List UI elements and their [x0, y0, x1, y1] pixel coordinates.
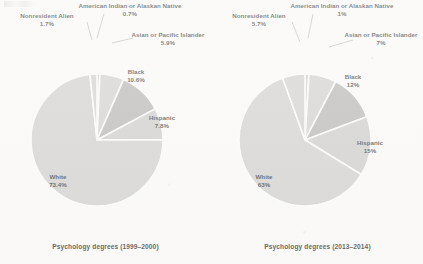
scan-artifact-icon: [4, 1, 48, 7]
slice-label-name: American Indian or Alaskan Native: [79, 2, 182, 9]
slice-label-name: Black: [345, 73, 362, 80]
slice-label-pct: 0.7%: [66, 10, 194, 18]
slice-label-hispanic-2013: Hispanic 15%: [344, 139, 396, 154]
slice-label-american-indian-1999: American Indian or Alaskan Native 0.7%: [66, 2, 194, 17]
slice-label-pct: 12%: [331, 81, 375, 89]
leader-line-american-indian: [308, 14, 313, 38]
slice-label-black-1999: Black 10.6%: [114, 68, 158, 83]
slice-label-american-indian-2013: American Indian or Alaskan Native 1%: [278, 2, 406, 17]
slice-label-name: American Indian or Alaskan Native: [291, 2, 394, 9]
slice-label-pct: 73.4%: [36, 181, 80, 189]
slice-label-pct: 15%: [344, 147, 396, 155]
slice-label-name: White: [255, 173, 272, 180]
slice-label-white-2013: White 63%: [242, 173, 286, 188]
slice-label-pct: 1.7%: [6, 20, 88, 28]
pie-chart-figure: Nonresident Alien 1.7% American Indian o…: [0, 0, 423, 264]
slice-label-name: Hispanic: [357, 139, 383, 146]
chart-panel-2013-2014: Nonresident Alien 5.7% American Indian o…: [212, 0, 423, 264]
slice-label-white-1999: White 73.4%: [36, 173, 80, 188]
slice-label-asian-pacific-1999: Asian or Pacific Islander 5.9%: [124, 31, 212, 46]
slice-label-pct: 5.9%: [124, 39, 212, 47]
slice-label-black-2013: Black 12%: [331, 73, 375, 88]
slice-label-asian-pacific-2013: Asian or Pacific Islander 7%: [338, 31, 423, 46]
chart-caption-1999-2000: Psychology degrees (1999–2000): [0, 243, 211, 250]
slice-label-pct: 1%: [278, 10, 406, 18]
slice-label-name: Black: [128, 68, 145, 75]
chart-panel-1999-2000: Nonresident Alien 1.7% American Indian o…: [0, 0, 211, 264]
slice-label-name: Asian or Pacific Islander: [345, 31, 418, 38]
slice-label-pct: 7.8%: [137, 122, 187, 130]
chart-caption-2013-2014: Psychology degrees (2013–2014): [212, 243, 423, 250]
slice-label-name: Asian or Pacific Islander: [132, 31, 205, 38]
leader-line-american-indian: [97, 14, 104, 38]
slice-label-hispanic-1999: Hispanic 7.8%: [137, 114, 187, 129]
slice-label-name: Hispanic: [149, 114, 175, 121]
slice-label-pct: 10.6%: [114, 76, 158, 84]
slice-label-pct: 5.7%: [218, 20, 300, 28]
slice-label-pct: 63%: [242, 181, 286, 189]
slice-label-name: White: [49, 173, 66, 180]
slice-label-pct: 7%: [338, 39, 423, 47]
